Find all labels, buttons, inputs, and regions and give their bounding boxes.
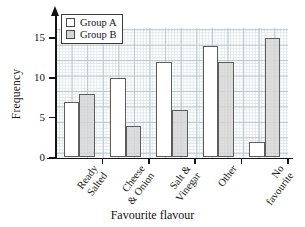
x-tick-1 (102, 158, 104, 164)
y-tick-0 (49, 157, 56, 159)
legend-item-group-a: Group A (66, 17, 116, 28)
y-axis-line (55, 14, 57, 159)
legend-swatch-group-b (66, 30, 75, 39)
y-tick-label-0: 0 (15, 151, 45, 163)
x-axis-title: Favourite flavour (0, 208, 305, 223)
legend-label-group-b: Group B (80, 29, 116, 40)
y-axis-arrow-icon (51, 6, 59, 16)
x-category-label-line1: Other (216, 163, 239, 189)
x-tick-3 (194, 158, 196, 164)
plot-area (56, 28, 288, 158)
x-tick-2 (148, 158, 150, 164)
bar-chart: 051015 Group A Group B Frequency ReadySa… (0, 0, 305, 227)
y-tick-5 (49, 117, 56, 119)
x-axis-line (47, 158, 293, 160)
x-tick-4 (241, 158, 243, 164)
legend-item-group-b: Group B (66, 29, 116, 40)
y-tick-15 (49, 37, 56, 39)
y-tick-label-15: 15 (15, 31, 45, 43)
x-tick-5 (287, 158, 289, 164)
legend-swatch-group-a (66, 18, 75, 27)
legend: Group A Group B (61, 14, 123, 45)
legend-label-group-a: Group A (80, 17, 116, 28)
y-tick-10 (49, 77, 56, 79)
y-axis-title: Frequency (10, 49, 22, 139)
grid-lines (56, 28, 288, 158)
